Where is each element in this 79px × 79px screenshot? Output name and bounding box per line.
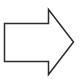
arrow-canvas — [0, 0, 79, 79]
arrow-right-icon — [0, 0, 79, 79]
